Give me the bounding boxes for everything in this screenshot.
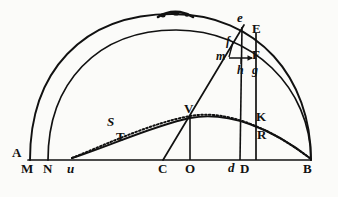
label-point-e-lower: e [237, 11, 243, 24]
label-point-f-upper: F [252, 48, 260, 61]
label-point-d-lower: d [228, 161, 235, 174]
label-point-h: h [237, 64, 244, 76]
label-point-k: K [256, 110, 266, 123]
label-curve-t: T [116, 130, 125, 143]
label-point-d-upper: D [240, 162, 249, 175]
label-point-a: A [12, 146, 21, 159]
label-point-c: C [158, 162, 167, 175]
vertical-d-e [240, 27, 242, 160]
label-point-b: B [303, 162, 312, 175]
label-curve-s: S [107, 115, 114, 128]
label-point-n: N [43, 162, 52, 175]
figure-container: A M N u C O d D B e E f m F h g V S T K … [0, 0, 338, 197]
label-point-u: u [67, 162, 74, 175]
outer-arc [30, 14, 311, 160]
label-point-g: g [252, 64, 258, 76]
label-point-v: V [184, 102, 193, 115]
label-point-o: O [185, 162, 195, 175]
label-point-e-upper: E [252, 22, 261, 35]
label-point-r: R [257, 128, 266, 141]
label-point-m-lower: m [216, 50, 225, 62]
label-point-m: M [21, 162, 33, 175]
apex-mark [158, 12, 193, 18]
inner-arc [48, 30, 311, 160]
label-point-f-lower: f [226, 35, 230, 47]
